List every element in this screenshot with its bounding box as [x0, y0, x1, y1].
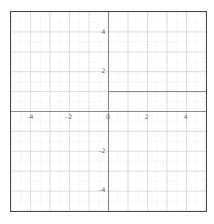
- y-tick-label: -2: [99, 147, 105, 153]
- x-tick-label: 2: [145, 114, 149, 120]
- x-tick-label: 4: [184, 114, 188, 120]
- y-tick-label: -4: [99, 187, 105, 193]
- data-series-layer: [11, 12, 206, 211]
- plot-frame: -4-202442-2-4: [10, 11, 207, 212]
- x-tick-label: 0: [106, 114, 110, 120]
- x-tick-label: -4: [27, 114, 33, 120]
- y-tick-label: 4: [102, 29, 106, 35]
- x-tick-label: -2: [66, 114, 72, 120]
- coordinate-plane-figure: -4-202442-2-4: [0, 0, 214, 224]
- plot-area: -4-202442-2-4: [11, 12, 206, 211]
- y-tick-label: 2: [102, 68, 106, 74]
